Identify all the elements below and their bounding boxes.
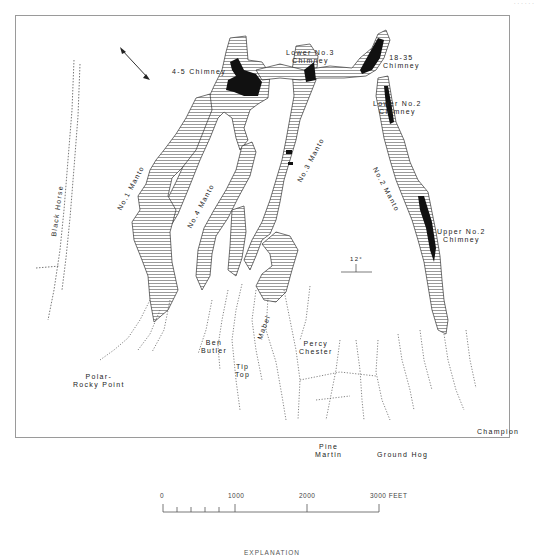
label-line: 18-35 xyxy=(383,54,420,62)
label-line: Chimney xyxy=(373,108,422,116)
label-lower-no3-chimney: Lower No.3 Chimney xyxy=(286,49,335,65)
scale-bar: 0 1000 2000 3000 FEET xyxy=(160,490,460,520)
label-18-35-chimney: 18-35 Chimney xyxy=(383,54,420,70)
scale-tick-1000: 1000 xyxy=(228,492,244,499)
label-polar-rocky-point: Polar- Rocky Point xyxy=(73,373,125,389)
label-champion: Champion xyxy=(477,428,519,436)
label-line: Pine xyxy=(315,443,342,451)
label-upper-no2-chimney: Upper No.2 Chimney xyxy=(437,228,486,244)
label-line: Chimney xyxy=(383,62,420,70)
label-line: Chimney xyxy=(437,236,486,244)
label-line: Upper No.2 xyxy=(437,228,486,236)
label-ben-butler: Ben Butler xyxy=(201,339,227,355)
cave-map-drawing xyxy=(0,0,544,559)
declination-label: 12° xyxy=(350,255,363,263)
label-tip-top: Tip Top xyxy=(235,363,250,379)
label-line: Lower No.3 xyxy=(286,49,335,57)
label-line: Lower No.2 xyxy=(373,100,422,108)
north-arrow-icon xyxy=(120,47,150,80)
scale-tick-2000: 2000 xyxy=(299,492,315,499)
label-lower-no2-chimney: Lower No.2 Chimney xyxy=(373,100,422,116)
label-pine-martin: Pine Martin xyxy=(315,443,342,459)
label-4-5-chimney: 4-5 Chimney xyxy=(172,68,226,76)
label-line: Chimney xyxy=(286,57,335,65)
label-line: Ben xyxy=(201,339,227,347)
label-ground-hog: Ground Hog xyxy=(377,451,428,459)
label-line: Martin xyxy=(315,451,342,459)
label-line: Percy xyxy=(299,340,333,348)
scale-tick-3000: 3000 FEET xyxy=(370,492,407,499)
label-line: Butler xyxy=(201,347,227,355)
label-percy-chester: Percy Chester xyxy=(299,340,333,356)
label-line: Polar- xyxy=(73,373,125,381)
label-line: Chester xyxy=(299,348,333,356)
scale-tick-0: 0 xyxy=(160,492,164,499)
label-line: Tip xyxy=(235,363,250,371)
explanation-heading: EXPLANATION xyxy=(0,549,544,556)
label-line: Top xyxy=(235,371,250,379)
declination-mark xyxy=(341,264,372,272)
label-line: Rocky Point xyxy=(73,381,125,389)
